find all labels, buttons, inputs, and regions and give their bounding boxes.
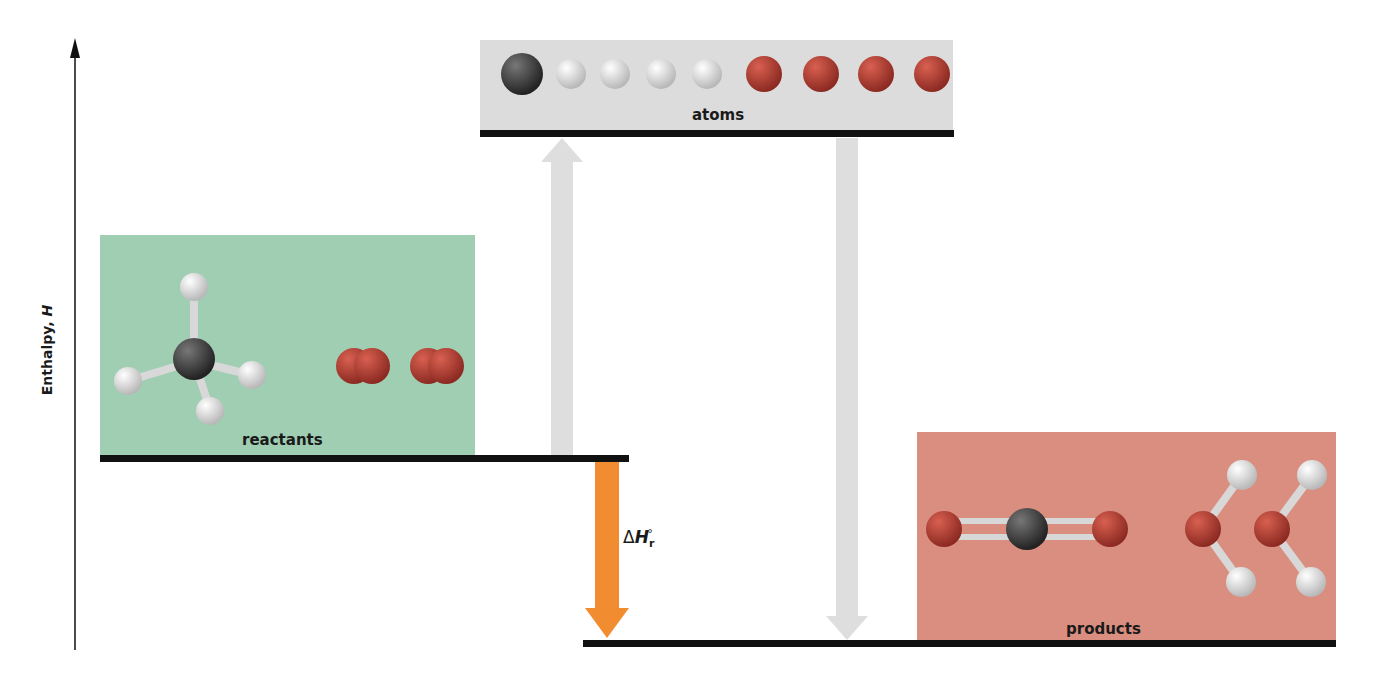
- axis-label: Enthalpy, H: [39, 305, 55, 395]
- water-molecule-icon: [1185, 460, 1257, 597]
- products-label: products: [1066, 620, 1141, 638]
- oxygen-molecule-icon: [410, 348, 464, 384]
- water-molecule-icon: [1254, 460, 1327, 597]
- reactants-molecules: [100, 235, 475, 455]
- products-box: products: [917, 432, 1336, 640]
- hydrogen-atom-icon: [646, 59, 676, 89]
- hydrogen-atom-icon: [600, 59, 630, 89]
- oxygen-atom-icon: [746, 56, 782, 92]
- products-molecules: [917, 432, 1336, 640]
- hydrogen-atom-icon: [556, 59, 586, 89]
- arrow-reactants-to-atoms: [535, 138, 595, 458]
- reactants-label: reactants: [242, 431, 323, 449]
- hydrogen-atom-icon: [692, 59, 722, 89]
- oxygen-atom-icon: [803, 56, 839, 92]
- reactants-box: reactants: [100, 235, 475, 455]
- atoms-level-line: [480, 130, 954, 137]
- enthalpy-axis: [60, 38, 90, 653]
- carbon-atom-icon: [501, 53, 543, 95]
- carbon-dioxide-molecule-icon: [926, 508, 1128, 550]
- delta-h-arrow: [580, 460, 640, 640]
- reactants-level-line: [100, 455, 629, 462]
- oxygen-atom-icon: [858, 56, 894, 92]
- atoms-label: atoms: [692, 106, 744, 124]
- products-level-line: [583, 640, 1336, 647]
- arrow-atoms-to-products: [820, 138, 880, 640]
- delta-h-label: ΔHr°: [623, 527, 653, 550]
- atoms-box: atoms: [480, 40, 953, 130]
- oxygen-atom-icon: [914, 56, 950, 92]
- axis-arrowhead-icon: [70, 38, 80, 58]
- methane-molecule-icon: [114, 273, 266, 425]
- oxygen-molecule-icon: [336, 348, 390, 384]
